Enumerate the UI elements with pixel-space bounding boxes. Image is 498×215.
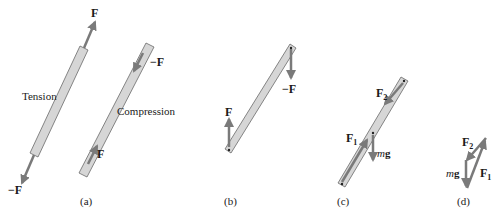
force-label-f1: F1 — [346, 131, 357, 147]
force-label-f: F — [225, 105, 232, 119]
force-label-f: F — [97, 147, 104, 161]
panel-c: F2 F1 mg (c) — [337, 77, 408, 208]
weight-label: mg — [377, 147, 391, 159]
force-arrow-up-right — [84, 22, 95, 48]
force-label-f2: F2 — [376, 86, 387, 102]
force-diagram: F −F Tension −F Compression F (a) F −F (… — [0, 0, 498, 215]
force-label-f2: F2 — [462, 135, 473, 151]
force-label-neg-f: −F — [150, 55, 164, 69]
pin-point — [403, 80, 405, 82]
pin-point — [341, 183, 343, 185]
force-arrow-down-left — [22, 155, 34, 183]
caption-a: (a) — [80, 195, 93, 208]
force-label-neg-f: −F — [282, 82, 296, 96]
rod-body — [225, 44, 296, 153]
weight-label: mg — [446, 167, 460, 179]
panel-b: F −F (b) — [224, 44, 296, 208]
panel-d: F2 F1 mg (d) — [446, 135, 491, 208]
center-of-mass — [372, 132, 374, 134]
panel-a: F −F Tension −F Compression F (a) — [8, 6, 176, 208]
compression-label: Compression — [117, 105, 176, 117]
pin-point — [228, 149, 230, 151]
pin-point — [290, 47, 292, 49]
tension-rod — [22, 22, 95, 183]
tension-label: Tension — [22, 90, 57, 102]
force-label-f1: F1 — [480, 166, 491, 182]
force-label-neg-f: −F — [8, 183, 22, 197]
caption-d: (d) — [457, 195, 470, 208]
caption-c: (c) — [337, 195, 350, 208]
caption-b: (b) — [224, 195, 237, 208]
force-label-f: F — [91, 6, 98, 20]
